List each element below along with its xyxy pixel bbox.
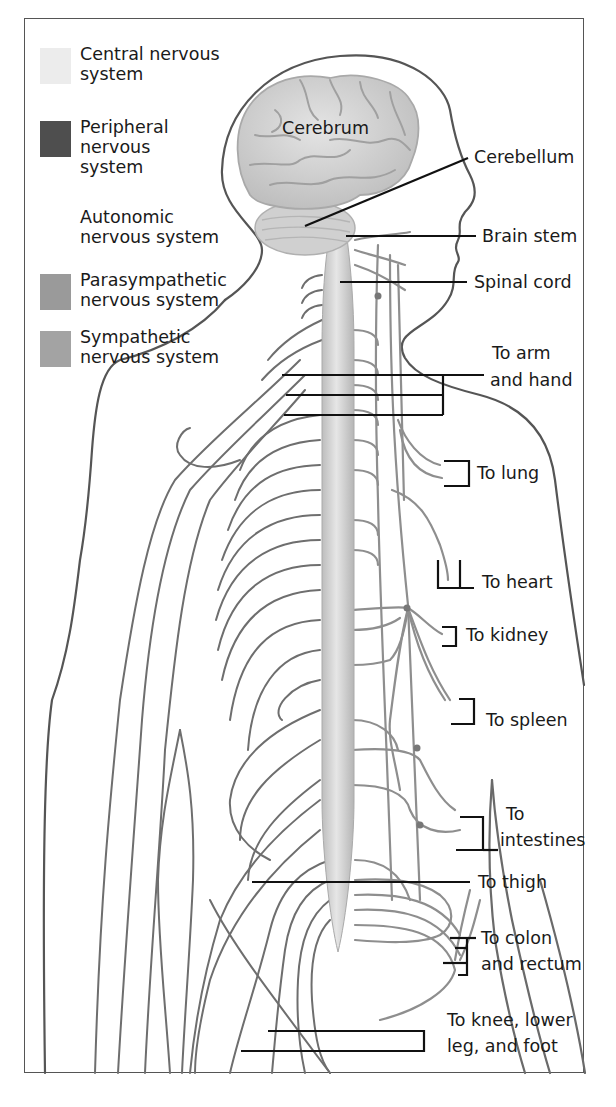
label-cerebellum: Cerebellum [474,147,574,167]
label-to-heart: To heart [482,572,553,592]
label-to-knee-line1: To knee, lower [447,1010,573,1030]
legend-label-sympathetic: Sympathetic nervous system [80,327,245,367]
label-to-intestines-line2: intestines [500,830,585,850]
intercostal-nerves [216,415,320,880]
label-to-arm-line2: and hand [490,370,573,390]
label-to-thigh: To thigh [478,872,547,892]
legend-swatch-central [40,48,71,84]
label-to-colon-line2: and rectum [481,954,582,974]
ganglia [375,293,424,829]
legend-label-peripheral: Peripheral nervous system [80,117,180,177]
spinal-cord [322,230,354,952]
label-to-arm-line1: To arm [492,343,551,363]
label-to-intestines-line1: To [506,804,524,824]
label-to-knee-line2: leg, and foot [447,1036,558,1056]
label-to-spleen: To spleen [486,710,568,730]
leader-lines [241,158,498,1051]
legend-swatch-parasympathetic [40,274,71,310]
autonomic-nerves [352,232,480,1020]
legend-label-central: Central nervous system [80,44,255,84]
label-cerebrum: Cerebrum [282,118,369,138]
arm-nerves [95,360,305,1073]
legend-swatch-sympathetic [40,331,71,367]
legend-autonomic-heading: Autonomic nervous system [80,207,240,247]
label-spinal-cord: Spinal cord [474,272,572,292]
label-to-kidney: To kidney [466,625,548,645]
legend-parasympathetic-nervous-system: Parasympathetic nervous system [40,270,245,310]
label-brain-stem: Brain stem [482,226,577,246]
legend-peripheral-nervous-system: Peripheral nervous system [40,117,180,177]
label-to-colon-line1: To colon [481,928,552,948]
legend-swatch-peripheral [40,121,71,157]
legend-central-nervous-system: Central nervous system [40,44,255,84]
cervical-nerves [262,275,322,380]
label-to-lung: To lung [477,463,539,483]
legend-label-parasympathetic: Parasympathetic nervous system [80,270,245,310]
legend-sympathetic-nervous-system: Sympathetic nervous system [40,327,245,367]
